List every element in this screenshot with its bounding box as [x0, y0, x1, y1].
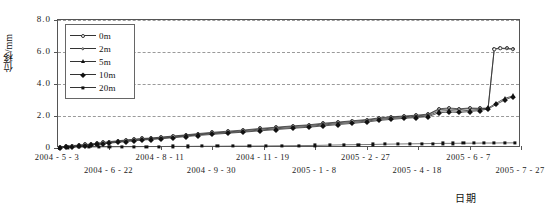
legend-marker-10m-icon	[70, 68, 96, 81]
data-point-20m	[145, 145, 148, 148]
legend-label-2m: 2m	[96, 44, 111, 54]
data-point-20m	[493, 141, 496, 144]
x-tick-label: 2005 - 2 - 27	[341, 152, 390, 162]
x-tick-label: 2005 - 1 - 8	[292, 165, 336, 175]
data-point-20m	[441, 142, 444, 145]
data-point-20m	[231, 144, 234, 147]
data-point-20m	[472, 142, 475, 145]
x-tick-label: 2004 - 5 - 3	[35, 152, 79, 162]
legend-item-0m[interactable]: 0m	[70, 29, 129, 42]
legend-marker-20m-icon	[70, 81, 96, 94]
legend-item-5m[interactable]: 5m	[70, 55, 129, 68]
data-point-20m	[120, 145, 123, 148]
data-point-20m	[342, 143, 345, 146]
data-point-20m	[314, 144, 317, 147]
data-point-20m	[462, 142, 465, 145]
data-point-20m	[157, 145, 160, 148]
legend-marker-0m-icon	[70, 29, 96, 42]
data-point-20m	[451, 142, 454, 145]
x-tick-label: 2004 - 9 - 30	[187, 165, 236, 175]
data-point-20m	[186, 145, 189, 148]
data-point-20m	[396, 142, 399, 145]
data-point-20m	[77, 146, 80, 149]
data-point-20m	[172, 145, 175, 148]
legend: 0m2m5m10m20m	[65, 24, 135, 99]
legend-item-2m[interactable]: 2m	[70, 42, 129, 55]
legend-marker-2m-icon	[70, 42, 96, 55]
data-point-20m	[328, 144, 331, 147]
data-point-20m	[297, 144, 300, 147]
legend-item-10m[interactable]: 10m	[70, 68, 129, 81]
data-point-20m	[248, 144, 251, 147]
y-tick-label: 0	[0, 142, 51, 152]
y-tick-label: 8.0	[0, 14, 51, 24]
data-point-20m	[200, 145, 203, 148]
data-point-20m	[67, 146, 70, 149]
data-point-20m	[503, 141, 506, 144]
x-tick-label: 2005 - 7 - 27	[495, 165, 544, 175]
data-point-20m	[133, 145, 136, 148]
legend-label-0m: 0m	[96, 31, 111, 41]
data-point-20m	[98, 145, 101, 148]
legend-label-10m: 10m	[96, 70, 116, 80]
x-tick-label: 2004 - 6 - 22	[84, 165, 133, 175]
data-point-20m	[421, 142, 424, 145]
chart-root: 位移/mm 日期 02.04.06.08.0 2004 - 5 - 32004 …	[0, 0, 554, 212]
x-tick-mark	[521, 146, 522, 150]
data-point-20m	[513, 141, 516, 144]
x-tick-label: 2004 - 11 - 19	[236, 152, 289, 162]
legend-marker-5m-icon	[70, 55, 96, 68]
x-tick-label: 2005 - 6 - 7	[446, 152, 490, 162]
y-tick-label: 4.0	[0, 78, 51, 88]
x-axis-title: 日期	[455, 190, 477, 205]
data-point-20m	[216, 145, 219, 148]
data-point-20m	[371, 143, 374, 146]
data-point-20m	[264, 144, 267, 147]
series-line-20m	[60, 143, 515, 148]
data-point-20m	[87, 145, 90, 148]
x-tick-label: 2004 - 8 - 11	[135, 152, 184, 162]
data-point-20m	[431, 142, 434, 145]
legend-item-20m[interactable]: 20m	[70, 81, 129, 94]
x-tick-label: 2005 - 4 - 18	[393, 165, 442, 175]
data-point-20m	[58, 146, 61, 149]
data-point-20m	[482, 141, 485, 144]
data-point-20m	[408, 142, 411, 145]
data-point-20m	[281, 144, 284, 147]
legend-label-5m: 5m	[96, 57, 111, 67]
y-tick-label: 2.0	[0, 110, 51, 120]
data-point-20m	[384, 143, 387, 146]
legend-label-20m: 20m	[96, 83, 116, 93]
y-tick-label: 6.0	[0, 46, 51, 56]
data-point-20m	[108, 145, 111, 148]
data-point-20m	[357, 143, 360, 146]
